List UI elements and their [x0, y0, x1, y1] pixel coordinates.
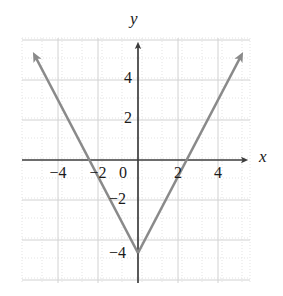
x-tick-label-neg4: −4 — [43, 165, 73, 181]
x-tick-label-pos4: 4 — [203, 165, 233, 181]
y-tick-label-pos4: 4 — [106, 70, 132, 86]
coordinate-plane — [0, 0, 283, 296]
y-tick-label-neg4: −4 — [100, 245, 126, 261]
y-tick-label-pos2: 2 — [106, 110, 132, 126]
graph-figure: y x −4 −2 0 2 4 4 2 −2 −4 — [0, 0, 283, 296]
x-tick-label-origin: 0 — [108, 165, 138, 181]
y-tick-label-neg2: −2 — [100, 191, 126, 207]
x-tick-label-pos2: 2 — [163, 165, 193, 181]
curve-right-branch — [138, 56, 241, 253]
y-axis-label: y — [130, 10, 138, 27]
x-axis-label: x — [259, 148, 267, 165]
